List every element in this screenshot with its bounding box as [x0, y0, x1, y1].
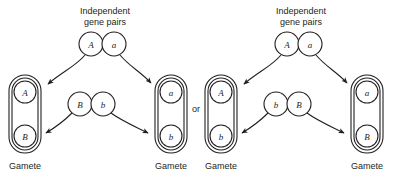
- panel-right-middle-gene-pair: b B: [264, 92, 311, 116]
- panel-left-gamete-right-label: Gamete: [155, 161, 187, 171]
- panel-right: Independent gene pairs A a b B: [205, 6, 383, 171]
- panel-left-gamete-left: A B Gamete: [9, 75, 41, 171]
- panel-right-top-gene-pair: A a: [275, 32, 322, 56]
- panel-right-gamete-left: A b Gamete: [205, 75, 237, 171]
- panel-right-heading-line1: Independent: [276, 6, 327, 16]
- panel-left-gamete-left-label: Gamete: [9, 161, 41, 171]
- panel-left-heading-line2: gene pairs: [84, 17, 127, 27]
- panel-right-top-allele-left-label: A: [283, 40, 290, 50]
- panel-right-gamete-right-allele-2-label: B: [364, 132, 370, 142]
- panel-right-gamete-left-allele-1-label: A: [217, 88, 224, 98]
- panel-left: Independent gene pairs A a B b: [9, 6, 187, 171]
- panel-right-arrow-top-right: [316, 55, 347, 83]
- panel-left-middle-allele-right-label: b: [101, 100, 106, 110]
- panel-right-middle-allele-right-label: B: [296, 100, 302, 110]
- panel-right-gamete-left-label: Gamete: [205, 161, 237, 171]
- panel-left-arrow-top-right: [120, 55, 151, 83]
- panel-left-top-allele-right-label: a: [112, 40, 117, 50]
- panel-left-middle-gene-pair: B b: [68, 92, 115, 116]
- panel-left-arrow-middle-left: [46, 113, 72, 133]
- panel-right-gamete-right-label: Gamete: [351, 161, 383, 171]
- panel-left-top-allele-left-label: A: [87, 40, 94, 50]
- panel-left-gamete-left-allele-2-label: B: [22, 132, 28, 142]
- panel-left-arrow-middle-right: [111, 113, 148, 133]
- panel-left-top-gene-pair: A a: [79, 32, 126, 56]
- panel-left-gamete-right: a b Gamete: [155, 75, 187, 171]
- panel-left-gamete-right-allele-1-label: a: [169, 88, 174, 98]
- panel-right-arrow-top-left: [244, 55, 281, 84]
- panel-right-gamete-left-allele-2-label: b: [219, 132, 224, 142]
- panel-right-top-allele-right-label: a: [308, 40, 313, 50]
- panel-right-gamete-right: a B Gamete: [351, 75, 383, 171]
- panel-left-gamete-right-allele-2-label: b: [169, 132, 174, 142]
- panel-right-arrow-middle-left: [242, 113, 268, 133]
- panel-left-arrow-top-left: [48, 55, 85, 84]
- panel-left-heading-line1: Independent: [80, 6, 131, 16]
- panel-left-gamete-left-allele-1-label: A: [21, 88, 28, 98]
- independent-assortment-diagram: Independent gene pairs A a B b: [0, 0, 393, 179]
- panel-left-middle-allele-left-label: B: [77, 100, 83, 110]
- panel-right-middle-allele-left-label: b: [274, 100, 279, 110]
- or-connector-label: or: [192, 104, 200, 114]
- panel-right-heading-line2: gene pairs: [280, 17, 323, 27]
- panel-right-arrow-middle-right: [307, 113, 344, 133]
- diagram-stage: Independent gene pairs A a B b: [0, 0, 393, 179]
- panel-right-gamete-right-allele-1-label: a: [365, 88, 370, 98]
